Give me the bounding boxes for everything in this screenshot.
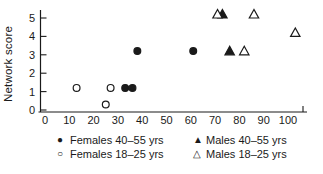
open-triangle-icon: △ [193, 149, 206, 159]
filled-triangle-icon: ▲ [193, 135, 206, 145]
legend-label: Females 18–25 yrs [70, 148, 164, 160]
y-tick-label: 3 [29, 49, 35, 61]
x-tick-label: 40 [136, 114, 148, 126]
x-tick-label: 90 [258, 114, 270, 126]
filled-circle-icon: ● [57, 135, 70, 145]
scatter-plot-figure: 0123450102030405060708090100 Network sco… [0, 0, 323, 174]
data-point-open-triangle [249, 10, 258, 19]
data-point-filled-circle [134, 48, 141, 55]
chart-legend: ● Females 40–55 yrs ▲ Males 40–55 yrs ○ … [57, 133, 287, 161]
legend-item-females-40-55: ● Females 40–55 yrs [57, 134, 193, 146]
open-circle-icon: ○ [57, 149, 70, 159]
x-tick-label: 50 [160, 114, 172, 126]
x-tick-label: 30 [112, 114, 124, 126]
data-point-open-circle [73, 85, 80, 92]
x-tick-label: 70 [209, 114, 221, 126]
y-tick-label: 4 [29, 30, 35, 42]
x-tick-label: 20 [87, 114, 99, 126]
y-tick-label: 1 [29, 86, 35, 98]
y-tick-label: 0 [29, 104, 35, 116]
legend-label: Males 40–55 yrs [206, 134, 287, 146]
x-tick-label: 80 [233, 114, 245, 126]
data-point-open-circle [102, 101, 109, 108]
x-tick-label: 60 [185, 114, 197, 126]
axes: 0123450102030405060708090100 [29, 10, 307, 126]
data-point-filled-circle [122, 85, 129, 92]
y-tick-label: 5 [29, 12, 35, 24]
y-axis-title: Network score [2, 26, 14, 102]
data-point-filled-triangle [225, 46, 234, 55]
data-points [73, 10, 300, 108]
data-point-open-circle [107, 85, 114, 92]
legend-label: Males 18–25 yrs [206, 148, 287, 160]
x-tick-label: 0 [42, 114, 48, 126]
legend-item-females-18-25: ○ Females 18–25 yrs [57, 148, 193, 160]
data-point-open-triangle [291, 28, 300, 36]
data-point-open-triangle [240, 46, 249, 55]
x-tick-label: 100 [279, 114, 297, 126]
legend-label: Females 40–55 yrs [70, 134, 164, 146]
legend-item-males-18-25: △ Males 18–25 yrs [193, 148, 287, 160]
legend-item-males-40-55: ▲ Males 40–55 yrs [193, 134, 287, 146]
x-tick-label: 10 [63, 114, 75, 126]
data-point-filled-circle [129, 85, 136, 92]
network-score-scatter-chart: 0123450102030405060708090100 Network sco… [0, 0, 323, 130]
y-tick-label: 2 [29, 67, 35, 79]
data-point-filled-circle [190, 48, 197, 55]
